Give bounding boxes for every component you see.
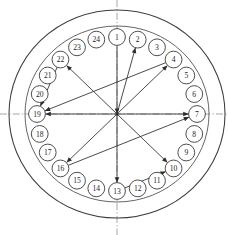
bolt-label-13: 13 (113, 187, 121, 196)
bolt-marker-13[interactable]: 13 (109, 183, 126, 200)
bolt-marker-23[interactable]: 23 (69, 39, 86, 56)
bolt-label-7: 7 (195, 110, 199, 119)
bolt-marker-4[interactable]: 4 (165, 51, 182, 68)
bolt-label-14: 14 (92, 184, 100, 193)
bolt-label-8: 8 (192, 130, 196, 139)
bolt-marker-10[interactable]: 10 (165, 160, 182, 177)
bolt-label-17: 17 (44, 148, 52, 157)
center-hub-layer (116, 113, 119, 116)
bolt-marker-18[interactable]: 18 (31, 126, 48, 143)
bolt-marker-11[interactable]: 11 (149, 172, 166, 189)
bolt-label-5: 5 (184, 71, 188, 80)
vector-center-to-4 (117, 65, 168, 114)
bolt-label-20: 20 (36, 90, 44, 99)
bolt-marker-22[interactable]: 22 (52, 51, 69, 68)
bolt-marker-14[interactable]: 14 (88, 180, 105, 197)
bolt-label-11: 11 (153, 176, 161, 185)
bolt-marker-15[interactable]: 15 (69, 172, 86, 189)
bolt-marker-24[interactable]: 24 (88, 31, 105, 48)
vector-center-to-13-arrowhead (115, 177, 120, 182)
bolt-label-6: 6 (192, 90, 196, 99)
bolt-label-19: 19 (33, 110, 41, 119)
bolt-label-9: 9 (184, 148, 188, 157)
center-hub-dot (116, 113, 119, 116)
vector-center-to-2-arrowhead (132, 48, 136, 54)
bolt-label-3: 3 (155, 43, 159, 52)
bolt-marker-16[interactable]: 16 (52, 160, 69, 177)
bolt-marker-12[interactable]: 12 (129, 180, 146, 197)
bolt-label-23: 23 (73, 43, 81, 52)
bolt-marker-2[interactable]: 2 (129, 31, 146, 48)
bolt-label-22: 22 (57, 55, 65, 64)
bolt-label-4: 4 (172, 55, 176, 64)
vector-4-to-19-arrowhead (45, 107, 51, 111)
bolt-label-12: 12 (134, 184, 142, 193)
bolt-marker-6[interactable]: 6 (186, 86, 203, 103)
bolt-marker-17[interactable]: 17 (39, 144, 56, 161)
vector-16-to-7 (68, 117, 189, 165)
bolt-sequence-diagram: 123456789101112131415161718192021222324 (0, 0, 228, 235)
bolt-marker-19[interactable]: 19 (29, 106, 46, 123)
bolt-label-1: 1 (115, 33, 119, 42)
bolt-marker-7[interactable]: 7 (189, 106, 206, 123)
vector-center-to-22 (66, 65, 117, 114)
bolt-label-18: 18 (36, 130, 44, 139)
bolt-label-10: 10 (170, 164, 178, 173)
bolt-marker-8[interactable]: 8 (186, 126, 203, 143)
bolt-marker-3[interactable]: 3 (149, 39, 166, 56)
vector-center-to-19-arrowhead (45, 112, 50, 117)
bolt-label-15: 15 (73, 176, 81, 185)
bolt-marker-1[interactable]: 1 (109, 29, 126, 46)
vector-16-to-7-arrowhead (183, 117, 189, 121)
bolt-label-21: 21 (44, 71, 52, 80)
bolt-marker-21[interactable]: 21 (39, 67, 56, 84)
vector-center-to-16 (66, 114, 117, 163)
bolt-label-2: 2 (136, 35, 140, 44)
vector-center-to-7-arrowhead (183, 112, 188, 117)
bolt-marker-5[interactable]: 5 (178, 67, 195, 84)
bolt-label-24: 24 (92, 35, 100, 44)
vector-center-to-10 (117, 114, 168, 163)
bolt-marker-20[interactable]: 20 (31, 86, 48, 103)
bolt-diagram-canvas: 123456789101112131415161718192021222324 (0, 0, 228, 235)
vector-4-to-19 (45, 63, 166, 111)
bolt-marker-9[interactable]: 9 (178, 144, 195, 161)
bolt-label-16: 16 (57, 164, 65, 173)
